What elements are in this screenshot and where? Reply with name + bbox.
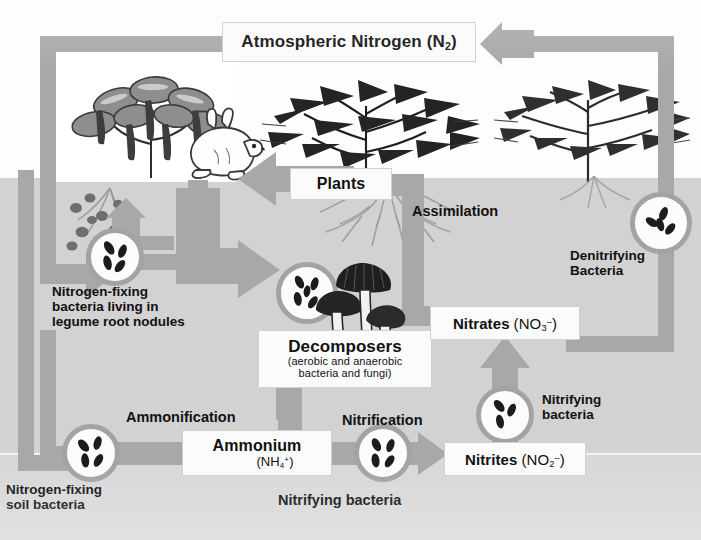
bacteria-icon	[635, 197, 687, 249]
nitrogen-fixing-nodule-line-1: Nitrogen-fixing	[52, 284, 232, 299]
plants-label: Plants	[317, 175, 366, 193]
nitrogen-fixing-soil-bacteria-circle	[62, 424, 120, 482]
assimilation-label: Assimilation	[412, 203, 498, 219]
decomposers-sub-2: bacteria and fungi)	[298, 368, 391, 380]
nitrates-label: Nitrates	[453, 315, 510, 332]
flow-denitrification-top	[512, 36, 674, 52]
nitrifying-line-1: Nitrifying	[542, 392, 642, 407]
denitrifying-line-2: Bacteria	[570, 263, 680, 278]
nitrogen-fixing-nodule-bacteria-circle	[86, 228, 144, 286]
bacteria-icon	[67, 429, 115, 477]
ammonification-label: Ammonification	[126, 409, 236, 425]
nitrifying-bacteria-bottom-label: Nitrifying bacteria	[278, 492, 401, 508]
nitrites-label: Nitrites	[465, 451, 517, 468]
nitrifying-bacteria-circle	[476, 386, 534, 444]
nitrogen-cycle-diagram: Atmospheric Nitrogen (N2) Plants Decompo…	[0, 0, 701, 540]
decomposers-label: Decomposers	[288, 338, 402, 356]
denitrifying-bacteria-label: Denitrifying Bacteria	[570, 248, 680, 278]
nitrogen-fixing-soil-line-1: Nitrogen-fixing	[6, 482, 176, 497]
bacteria-icon	[359, 429, 407, 477]
arrowhead-denitrification-to-atmosphere	[480, 22, 536, 66]
nitrification-label: Nitrification	[342, 412, 423, 428]
nitrates-formula: (NO3–)	[514, 315, 557, 332]
atmospheric-nitrogen-box[interactable]: Atmospheric Nitrogen (N2)	[222, 22, 476, 62]
nitrogen-fixing-soil-line-2: soil bacteria	[6, 497, 176, 512]
bacteria-icon	[481, 391, 529, 439]
atmospheric-nitrogen-label: Atmospheric Nitrogen	[241, 32, 422, 52]
ammonium-box[interactable]: Ammonium (NH4+)	[182, 430, 332, 476]
nitrites-box[interactable]: Nitrites (NO2–)	[444, 442, 586, 476]
nitrogen-fixing-soil-label: Nitrogen-fixing soil bacteria	[6, 482, 176, 512]
nitrification-bacteria-circle	[354, 424, 412, 482]
ammonium-formula: (NH4+)	[256, 455, 293, 469]
ammonium-label: Ammonium	[213, 438, 302, 455]
decomposers-box[interactable]: Decomposers (aerobic and anaerobic bacte…	[258, 330, 432, 388]
flow-atmosphere-far-left-down	[18, 170, 34, 470]
nitrogen-fixing-nodule-label: Nitrogen-fixing bacteria living in legum…	[52, 284, 232, 329]
nitrites-formula: (NO2–)	[522, 451, 565, 468]
plants-box[interactable]: Plants	[290, 168, 392, 200]
atmospheric-nitrogen-formula: (N2)	[427, 32, 457, 52]
denitrifying-line-1: Denitrifying	[570, 248, 680, 263]
nitrates-box[interactable]: Nitrates (NO3–)	[430, 306, 580, 340]
nitrogen-fixing-nodule-line-2: bacteria living in	[52, 299, 232, 314]
nitrifying-line-2: bacteria	[542, 407, 642, 422]
flow-nodule-down-left	[40, 330, 56, 462]
bacteria-icon	[91, 233, 139, 281]
nitrifying-bacteria-label: Nitrifying bacteria	[542, 392, 642, 422]
nitrogen-fixing-nodule-line-3: legume root nodules	[52, 314, 232, 329]
denitrifying-bacteria-circle	[630, 192, 692, 254]
